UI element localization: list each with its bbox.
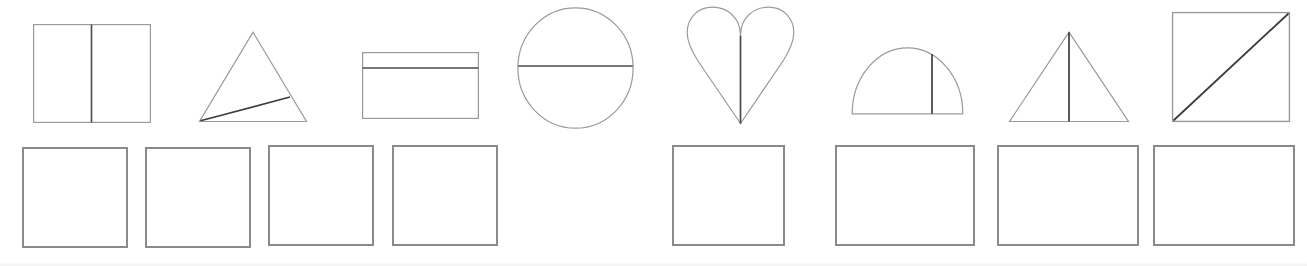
shape-heart-split-vertical xyxy=(686,6,795,125)
answer-box-8[interactable] xyxy=(1153,145,1295,246)
heart-split-vertical-icon xyxy=(686,6,795,125)
shape-rectangle-split-horizontal xyxy=(362,52,479,119)
answer-box-1-outline xyxy=(22,147,128,248)
answer-box-7-outline xyxy=(997,145,1139,246)
page-bottom-edge-shadow xyxy=(0,262,1307,266)
rectangle-split-horizontal-icon xyxy=(362,52,479,119)
answer-box-1[interactable] xyxy=(22,147,128,248)
answer-box-2-outline xyxy=(145,147,251,248)
triangle-outline xyxy=(200,32,307,121)
answer-box-2[interactable] xyxy=(145,147,251,248)
semicircle-split-vertical-icon xyxy=(851,46,964,115)
shape-triangle-split-vertical xyxy=(1008,31,1130,123)
diagonal-divider-line xyxy=(1174,14,1289,121)
answer-box-5-outline xyxy=(672,145,785,246)
circle-outline xyxy=(518,8,633,128)
answer-box-5[interactable] xyxy=(672,145,785,246)
answer-box-7[interactable] xyxy=(997,145,1139,246)
answer-box-6-outline xyxy=(835,145,975,246)
answer-box-3-outline xyxy=(268,145,374,246)
circle-split-horizontal-icon xyxy=(517,7,634,129)
shape-square-split-diagonal xyxy=(1172,12,1290,122)
shape-triangle-split-diagonal xyxy=(198,31,308,123)
answer-box-3[interactable] xyxy=(268,145,374,246)
square-split-diagonal-icon xyxy=(1172,12,1290,122)
diagonal-divider-line xyxy=(201,97,291,121)
semicircle-outline xyxy=(852,48,963,114)
triangle-split-diagonal-icon xyxy=(198,31,308,123)
shape-circle-split-horizontal xyxy=(517,7,634,129)
square-split-vertical-icon xyxy=(33,24,151,123)
worksheet-page xyxy=(0,0,1307,266)
answer-box-4[interactable] xyxy=(392,145,498,246)
triangle-split-vertical-icon xyxy=(1008,31,1130,123)
answer-box-8-outline xyxy=(1153,145,1295,246)
rectangle-outline xyxy=(363,53,479,119)
shape-semicircle-split-vertical xyxy=(851,46,964,115)
shape-square-split-vertical xyxy=(33,24,151,123)
answer-box-6[interactable] xyxy=(835,145,975,246)
answer-box-4-outline xyxy=(392,145,498,246)
